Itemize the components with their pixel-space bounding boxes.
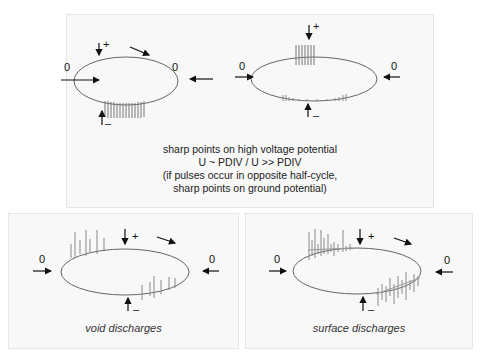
zero-right: 0 [172, 61, 178, 73]
surface-panel: 0 0 + – surface discharges [245, 213, 473, 349]
plus-label: + [103, 38, 109, 50]
pulses [71, 230, 175, 300]
top-panel: 0 0 + – [66, 14, 434, 208]
desc-line-4: sharp points on ground potential) [67, 182, 433, 195]
minus-label: – [105, 117, 112, 129]
arrow-direction [130, 47, 149, 55]
pulses [105, 101, 144, 118]
void-panel: 0 0 + – void discharges [8, 213, 239, 349]
plus-label: + [313, 20, 319, 32]
zero-left: 0 [274, 253, 280, 265]
description: sharp points on high voltage potential U… [67, 143, 433, 195]
zero-right: 0 [209, 253, 215, 265]
zero-right: 0 [444, 254, 450, 266]
arrow-direction [157, 237, 175, 243]
zero-right: 0 [391, 60, 397, 72]
pulses-top [296, 45, 314, 65]
minus-label: – [368, 303, 375, 315]
pulses [308, 229, 420, 306]
zero-left: 0 [64, 61, 70, 73]
plus-label: + [132, 230, 138, 242]
desc-line-2: U ~ PDIV / U >> PDIV [67, 156, 433, 169]
desc-line-3: (if pulses occur in opposite half-cycle, [67, 169, 433, 182]
zero-left: 0 [239, 60, 245, 72]
plus-label: + [368, 230, 374, 242]
caption: surface discharges [246, 322, 472, 334]
minus-label: – [313, 109, 320, 121]
minus-label: – [133, 303, 140, 315]
desc-line-1: sharp points on high voltage potential [67, 143, 433, 156]
zero-left: 0 [39, 253, 45, 265]
diagram-right: 0 0 + – [235, 20, 400, 121]
caption: void discharges [9, 322, 238, 334]
arrow-direction [394, 238, 411, 244]
diagram-left: 0 0 + – [61, 38, 213, 129]
